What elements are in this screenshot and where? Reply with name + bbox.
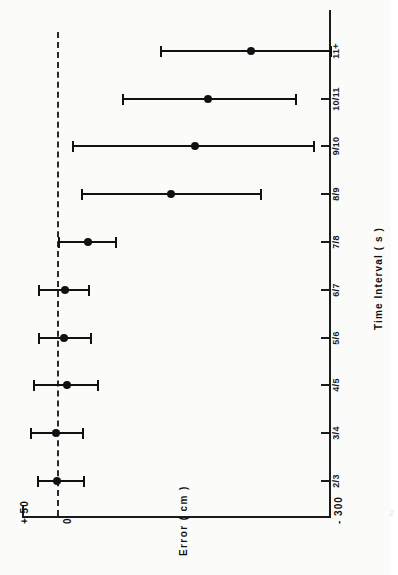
category-tick [321,193,330,195]
zero-reference-line [57,32,59,516]
value-tick-label-1: 0 [62,517,73,524]
data-point-marker [60,334,68,342]
category-tick [321,384,330,386]
data-point-marker [52,429,60,437]
error-bar-cap-low [313,141,315,152]
error-bar-cap-low [90,333,92,344]
error-bar-cap-high [81,189,83,200]
data-point-marker [84,238,92,246]
category-label-11plus: 11+ [331,31,341,71]
error-bar-cap-high [58,237,60,248]
error-bar-cap-high [38,333,40,344]
category-label-6-7: 6/7 [331,270,341,310]
data-point-marker [247,47,255,55]
error-bar-line [160,50,330,52]
y-axis-title: Error ( cm ) [178,485,189,556]
error-bar-cap-low [260,189,262,200]
error-bar-cap-low [88,285,90,296]
category-tick [321,337,330,339]
category-label-8-9: 8/9 [331,174,341,214]
error-bar-cap-high [38,285,40,296]
category-tick [321,289,330,291]
category-label-2-3: 2/3 [331,461,341,501]
category-tick [321,480,330,482]
error-bar-cap-high [72,141,74,152]
category-tick [321,98,330,100]
x-axis-title: Time Interval ( s ) [373,227,384,330]
data-point-marker [167,190,175,198]
error-bar-cap-high [160,46,162,57]
category-tick [321,145,330,147]
category-label-10-11: 10/11 [331,79,341,119]
category-label-5-6: 5/6 [331,318,341,358]
data-point-marker [53,477,61,485]
error-bar-cap-high [122,94,124,105]
category-tick [321,432,330,434]
data-point-marker [191,142,199,150]
error-bar-cap-low [83,476,85,487]
category-tick [321,241,330,243]
error-bar-cap-low [330,46,332,57]
category-label-4-5: 4/5 [331,365,341,405]
value-tick-label-0: + 50 [19,500,30,524]
category-label-7-8: 7/8 [331,222,341,262]
error-bar-cap-high [33,380,35,391]
error-bar-cap-high [30,428,32,439]
error-bar-cap-low [115,237,117,248]
data-point-marker [61,286,69,294]
category-label-9-10: 9/10 [331,126,341,166]
category-label-3-4: 3/4 [331,413,341,453]
error-bar-cap-low [97,380,99,391]
data-point-marker [63,381,71,389]
value-tick-label-2: - 300 [333,496,344,524]
error-bar-cap-low [82,428,84,439]
error-bar-cap-high [37,476,39,487]
error-bar-cap-low [295,94,297,105]
caption-bleed-text: Fig. [389,486,398,516]
data-point-marker [204,95,212,103]
